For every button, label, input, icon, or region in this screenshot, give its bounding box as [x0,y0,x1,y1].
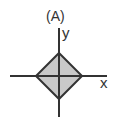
x-axis-label: x [100,75,108,90]
y-axis-label: y [62,25,70,40]
diagram-canvas [0,0,115,118]
